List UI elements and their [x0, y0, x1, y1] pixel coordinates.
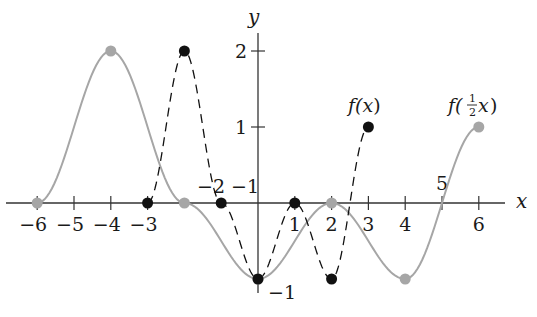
x-tick-label: −4 — [93, 213, 121, 235]
y-axis-label: y — [247, 5, 260, 29]
y-ticks: −112 — [235, 40, 296, 303]
x-tick-label: −3 — [130, 213, 158, 235]
series-label-f-half: f( 1 2 x ) — [446, 92, 497, 119]
point-f-half-x — [473, 122, 484, 133]
point-f-x — [179, 46, 190, 57]
x-tick-label: −6 — [19, 213, 47, 235]
y-tick-label: −1 — [268, 281, 296, 303]
x-tick-label: −1 — [231, 175, 259, 197]
x-tick-label: 3 — [362, 213, 374, 235]
point-f-half-x — [326, 198, 337, 209]
point-f-x — [363, 122, 374, 133]
point-f-x — [289, 198, 300, 209]
point-f-half-x — [32, 198, 43, 209]
svg-text:2: 2 — [469, 106, 476, 119]
point-f-x — [253, 274, 264, 285]
svg-text:1: 1 — [469, 92, 476, 105]
point-f-half-x — [105, 46, 116, 57]
function-graph: −6−5−4−3−2−1123456 −112 x y f(x) f( 1 2 … — [0, 0, 537, 317]
point-f-x — [142, 198, 153, 209]
y-tick-label: 2 — [235, 40, 247, 62]
x-tick-label: 2 — [326, 213, 338, 235]
y-tick-label: 1 — [235, 116, 247, 138]
x-tick-label: −5 — [56, 213, 84, 235]
x-tick-label: 1 — [289, 213, 301, 235]
svg-text:): ) — [490, 94, 497, 116]
svg-text:x: x — [478, 94, 489, 116]
x-axis-label: x — [516, 189, 527, 213]
x-tick-label: 6 — [473, 213, 485, 235]
point-f-x — [326, 274, 337, 285]
series-label-f: f(x) — [346, 94, 381, 116]
point-f-half-x — [179, 198, 190, 209]
point-f-x — [216, 198, 227, 209]
axes: −6−5−4−3−2−1123456 −112 x y — [6, 5, 527, 303]
svg-text:f(: f( — [446, 94, 463, 116]
point-f-half-x — [400, 274, 411, 285]
x-tick-label: 4 — [399, 213, 411, 235]
